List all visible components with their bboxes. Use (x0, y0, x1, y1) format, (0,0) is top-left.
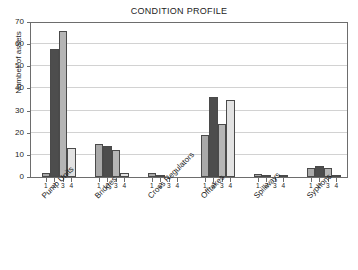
x-axis: 1234Pump Units1234Bridges1234Cross Regul… (30, 178, 348, 268)
bar (42, 173, 51, 177)
bar (120, 173, 129, 177)
bar (50, 49, 59, 177)
y-tick-label: 60 (0, 40, 24, 48)
bar (59, 31, 68, 177)
y-tick-label: 0 (0, 173, 24, 181)
bar (332, 175, 341, 177)
x-tick-condition-label: 4 (332, 182, 340, 189)
bar (209, 97, 218, 177)
bar (148, 173, 157, 177)
bar (95, 144, 104, 177)
y-tick-label: 70 (0, 18, 24, 26)
bar (103, 146, 112, 177)
bar (218, 124, 227, 177)
condition-profile-chart: CONDITION PROFILE Number of assets 01020… (0, 0, 358, 270)
y-tick-label: 10 (0, 151, 24, 159)
x-tick-condition-label: 4 (120, 182, 128, 189)
bar (226, 100, 235, 178)
bar (201, 135, 210, 177)
y-tick-label: 50 (0, 62, 24, 70)
x-tick-condition-label: 4 (173, 182, 181, 189)
x-tick-condition-label: 4 (67, 182, 75, 189)
y-tick-label: 20 (0, 129, 24, 137)
x-tick-condition-label: 4 (226, 182, 234, 189)
bar (254, 174, 263, 177)
x-tick-condition-label: 4 (279, 182, 287, 189)
y-tick-label: 30 (0, 107, 24, 115)
bar (112, 150, 121, 177)
y-tick-label: 40 (0, 84, 24, 92)
chart-title: CONDITION PROFILE (0, 6, 358, 16)
bar (307, 168, 316, 177)
